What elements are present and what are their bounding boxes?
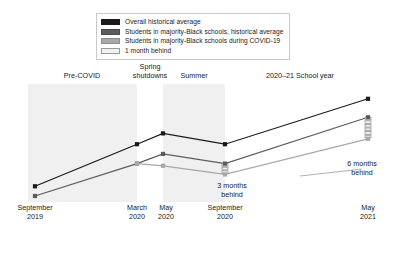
x-axis-label-september-2020: September 2020	[187, 203, 263, 221]
gap-segment	[365, 128, 371, 131]
period-label-pre-covid: Pre-COVID	[47, 72, 117, 81]
legend-label-overall-historical-average: Overall historical average	[125, 18, 201, 26]
legend-item-one-month-behind: 1 month behind	[101, 46, 283, 55]
x-axis-label-may-2020: May 2020	[146, 203, 186, 221]
legend-swatch-majority-black-historical-average	[101, 29, 120, 35]
legend-label-one-month-behind: 1 month behind	[125, 47, 171, 55]
legend-item-overall-historical-average: Overall historical average	[101, 18, 283, 27]
series-marker	[161, 152, 165, 156]
series-marker	[135, 162, 139, 166]
annotation-six-months-behind: 6 months behind	[334, 159, 390, 177]
series-marker	[366, 137, 370, 141]
gap-segment	[365, 121, 371, 124]
annotation-three-months-behind: 3 months behind	[204, 181, 260, 199]
legend-swatch-majority-black-during-covid	[101, 38, 120, 44]
legend-item-majority-black-during-covid: Students in majority-Black schools durin…	[101, 37, 283, 46]
x-axis-label-september-2019: September 2019	[0, 203, 73, 221]
series-marker	[33, 194, 37, 198]
series-marker	[223, 172, 227, 176]
series-marker	[366, 97, 370, 101]
gap-segment	[222, 167, 228, 170]
legend-swatch-overall-historical-average	[101, 19, 120, 25]
period-bands	[28, 84, 225, 202]
legend-swatch-one-month-behind	[101, 48, 120, 54]
legend-item-majority-black-historical-average: Students in majority-Black schools, hist…	[101, 27, 283, 36]
series-marker	[161, 131, 165, 135]
series-marker	[161, 164, 165, 168]
gap-segment	[365, 132, 371, 135]
period-label-summer: Summer	[169, 72, 219, 81]
series-marker	[33, 184, 37, 188]
chart-legend: Overall historical average Students in m…	[96, 13, 290, 60]
series-marker	[223, 162, 227, 166]
series-marker	[135, 142, 139, 146]
legend-label-majority-black-during-covid: Students in majority-Black schools durin…	[125, 37, 280, 45]
period-label-school-year: 2020–21 School year	[245, 72, 355, 81]
legend-label-majority-black-historical-average: Students in majority-Black schools, hist…	[125, 28, 283, 36]
x-axis-label-may-2021: May 2021	[346, 203, 390, 221]
chart-root: Overall historical average Students in m…	[0, 0, 401, 258]
series-marker	[223, 142, 227, 146]
gap-segment	[365, 124, 371, 127]
period-band	[28, 84, 137, 202]
series-marker	[366, 115, 370, 119]
